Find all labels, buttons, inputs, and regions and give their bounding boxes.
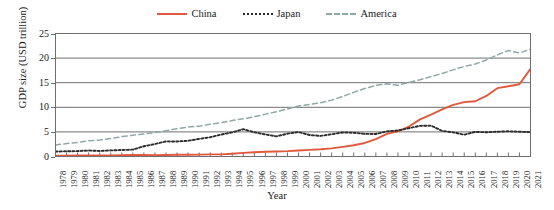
y-tick-label-0: 0 bbox=[25, 152, 49, 162]
legend-item-america: America bbox=[326, 9, 396, 20]
x-tick-label-1997: 1997 bbox=[269, 171, 278, 188]
legend-label-japan: Japan bbox=[277, 9, 301, 20]
x-axis-tick-labels: 1978197919801981198219831984198519861987… bbox=[55, 160, 531, 190]
x-tick-label-2002: 2002 bbox=[324, 171, 333, 188]
x-tick-label-1978: 1978 bbox=[59, 171, 68, 188]
x-tick-label-1990: 1990 bbox=[191, 171, 200, 188]
x-tick-label-2012: 2012 bbox=[434, 171, 443, 188]
x-tick-label-2004: 2004 bbox=[346, 171, 355, 188]
x-tick-label-1981: 1981 bbox=[92, 171, 101, 188]
legend-label-china: China bbox=[191, 9, 216, 20]
series-line-japan bbox=[56, 126, 531, 152]
x-tick-label-1982: 1982 bbox=[103, 171, 112, 188]
plot-border bbox=[56, 34, 531, 157]
legend-swatch-america bbox=[326, 13, 356, 15]
series-line-america bbox=[56, 49, 531, 145]
x-tick-label-2017: 2017 bbox=[490, 171, 499, 188]
legend-swatch-china bbox=[157, 13, 187, 15]
x-tick-label-2010: 2010 bbox=[412, 171, 421, 188]
chart-legend: China Japan America bbox=[0, 4, 554, 24]
x-tick-label-2007: 2007 bbox=[379, 171, 388, 188]
x-tick-label-1980: 1980 bbox=[81, 171, 90, 188]
legend-label-america: America bbox=[360, 9, 396, 20]
gdp-line-chart: China Japan America GDP size (USD trilli… bbox=[0, 0, 554, 210]
y-tick-label-25: 25 bbox=[25, 29, 49, 39]
x-tick-label-1989: 1989 bbox=[180, 171, 189, 188]
x-tick-label-1999: 1999 bbox=[291, 171, 300, 188]
x-tick-label-2014: 2014 bbox=[456, 171, 465, 188]
x-tick-label-2009: 2009 bbox=[401, 171, 410, 188]
x-tick-label-1994: 1994 bbox=[235, 171, 244, 188]
gridlines bbox=[56, 58, 531, 132]
x-tick-label-1996: 1996 bbox=[258, 171, 267, 188]
x-axis-title: Year bbox=[0, 190, 554, 201]
plot-area bbox=[55, 33, 531, 157]
series-line-china bbox=[56, 69, 531, 156]
x-tick-label-2018: 2018 bbox=[501, 171, 510, 188]
x-tick-label-2019: 2019 bbox=[512, 171, 521, 188]
x-tick-label-2008: 2008 bbox=[390, 171, 399, 188]
legend-item-japan: Japan bbox=[243, 9, 301, 20]
x-tick-label-2006: 2006 bbox=[368, 171, 377, 188]
x-tick-label-2005: 2005 bbox=[357, 171, 366, 188]
x-tick-label-1983: 1983 bbox=[114, 171, 123, 188]
x-tick-label-1988: 1988 bbox=[169, 171, 178, 188]
x-tick-label-2016: 2016 bbox=[478, 171, 487, 188]
legend-swatch-japan bbox=[243, 13, 273, 15]
x-tick-label-2020: 2020 bbox=[523, 171, 532, 188]
legend-item-china: China bbox=[157, 9, 216, 20]
y-tick-label-20: 20 bbox=[25, 53, 49, 63]
x-tick-label-2013: 2013 bbox=[445, 171, 454, 188]
x-tick-label-1986: 1986 bbox=[147, 171, 156, 188]
x-tick-label-2021: 2021 bbox=[534, 171, 543, 188]
x-tick-label-2000: 2000 bbox=[302, 171, 311, 188]
x-tick-label-1998: 1998 bbox=[280, 171, 289, 188]
x-tick-label-1987: 1987 bbox=[158, 171, 167, 188]
x-tick-label-2011: 2011 bbox=[423, 171, 432, 188]
x-tick-label-1993: 1993 bbox=[224, 171, 233, 188]
x-tick-label-1984: 1984 bbox=[125, 171, 134, 188]
x-tick-label-1979: 1979 bbox=[70, 171, 79, 188]
data-series-layer bbox=[56, 49, 531, 156]
x-tick-label-1995: 1995 bbox=[246, 171, 255, 188]
y-tick-label-10: 10 bbox=[25, 102, 49, 112]
x-tick-label-1991: 1991 bbox=[202, 171, 211, 188]
y-tick-label-15: 15 bbox=[25, 78, 49, 88]
x-tick-label-1985: 1985 bbox=[136, 171, 145, 188]
y-tick-label-5: 5 bbox=[25, 127, 49, 137]
x-tick-label-1992: 1992 bbox=[213, 171, 222, 188]
x-tick-label-2001: 2001 bbox=[313, 171, 322, 188]
plot-canvas bbox=[55, 33, 531, 157]
x-tick-label-2003: 2003 bbox=[335, 171, 344, 188]
x-tick-label-2015: 2015 bbox=[467, 171, 476, 188]
